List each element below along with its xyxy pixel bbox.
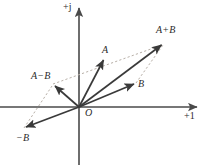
vector-negative-b bbox=[26, 107, 79, 127]
vector-a bbox=[79, 60, 104, 107]
axis-label-imaginary: +j bbox=[63, 2, 72, 12]
vector-a-plus-b bbox=[79, 45, 162, 107]
origin-label: O bbox=[85, 108, 92, 118]
vector-label-b: B bbox=[138, 79, 144, 89]
vector-label-negative-b: −B bbox=[16, 133, 29, 143]
vector-diagram: +j +1 O A B A+B A−B −B bbox=[0, 0, 202, 165]
vector-b bbox=[79, 84, 134, 107]
vector-label-a: A bbox=[102, 45, 108, 55]
vector-label-a-minus-b: A−B bbox=[31, 71, 51, 81]
vector-label-a-plus-b: A+B bbox=[156, 25, 176, 35]
axis-label-real: +1 bbox=[184, 111, 195, 121]
vector-a-minus-b bbox=[55, 86, 79, 107]
